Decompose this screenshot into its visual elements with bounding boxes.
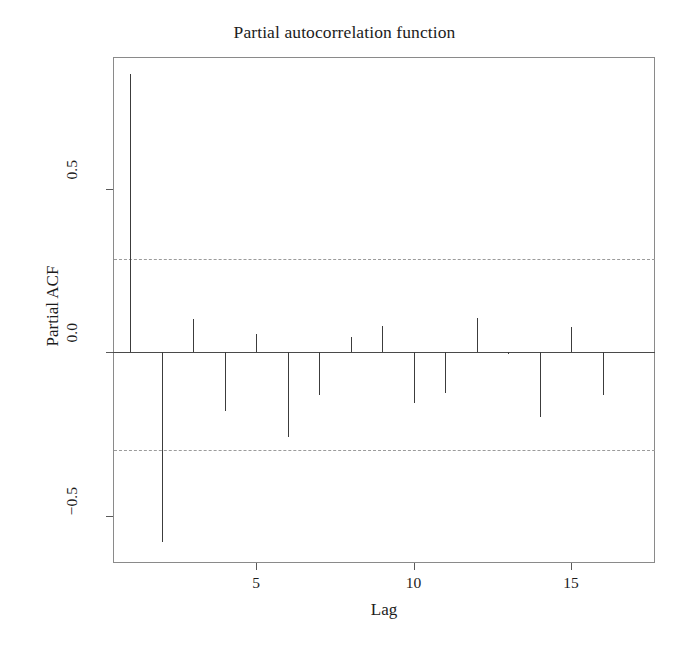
upper-confidence-band	[114, 259, 655, 260]
plot-area	[113, 57, 655, 563]
x-tick-label: 15	[551, 574, 591, 592]
y-tick-label: 0.5	[63, 160, 81, 216]
pacf-stem	[319, 352, 320, 395]
y-tick-label: −0.5	[63, 487, 81, 543]
pacf-stem	[603, 352, 604, 395]
pacf-stem	[540, 352, 541, 417]
y-tick-mark	[106, 189, 113, 190]
x-tick-label: 10	[394, 574, 434, 592]
x-tick-mark	[414, 563, 415, 570]
y-tick-label: 0.0	[63, 323, 81, 379]
y-axis-title: Partial ACF	[43, 236, 63, 376]
pacf-stem	[193, 319, 194, 352]
y-tick-mark	[106, 352, 113, 353]
pacf-stem	[256, 334, 257, 352]
pacf-stem	[162, 352, 163, 542]
pacf-stem	[351, 337, 352, 352]
y-tick-mark	[106, 516, 113, 517]
pacf-stem	[288, 352, 289, 437]
x-tick-mark	[256, 563, 257, 570]
pacf-stem	[508, 352, 509, 354]
pacf-stem	[130, 74, 131, 352]
pacf-figure: Partial autocorrelation function 0.50.0−…	[0, 0, 689, 645]
pacf-stem	[382, 326, 383, 352]
pacf-stem	[571, 327, 572, 352]
lower-confidence-band	[114, 450, 655, 451]
pacf-stem	[225, 352, 226, 411]
pacf-stem	[477, 318, 478, 352]
zero-baseline	[113, 352, 655, 353]
pacf-stem	[445, 352, 446, 393]
x-axis-title: Lag	[113, 600, 655, 620]
x-tick-mark	[571, 563, 572, 570]
pacf-stem	[414, 352, 415, 403]
x-tick-label: 5	[236, 574, 276, 592]
chart-title: Partial autocorrelation function	[0, 22, 689, 43]
